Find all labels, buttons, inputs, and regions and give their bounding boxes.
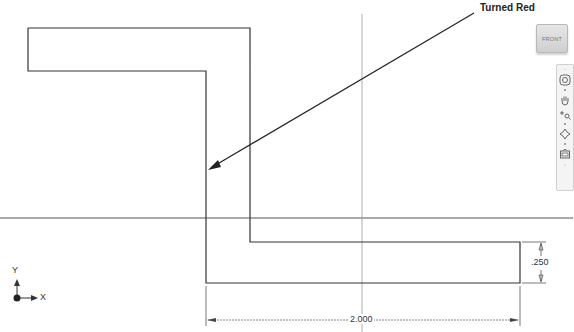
- navbar-customize-icon[interactable]: ▫: [564, 161, 566, 169]
- navbar-separator: [564, 143, 566, 145]
- leader-arrowhead: [208, 160, 221, 170]
- thickness-dimension-value[interactable]: .250: [530, 257, 550, 267]
- steering-wheel-icon[interactable]: [558, 73, 572, 87]
- navbar-separator: [564, 89, 566, 91]
- coordinate-triad: [14, 279, 39, 302]
- navbar-separator: [564, 123, 566, 125]
- viewcube[interactable]: FRONT: [536, 24, 568, 53]
- width-dimension-value[interactable]: 2.000: [349, 314, 374, 324]
- pan-hand-icon[interactable]: [558, 93, 572, 107]
- navbar-close-icon[interactable]: ◦: [564, 65, 566, 73]
- orbit-icon[interactable]: [558, 127, 572, 141]
- callout-text: Turned Red: [480, 2, 535, 13]
- y-axis-label: Y: [12, 265, 18, 275]
- leader-line: [214, 13, 474, 166]
- view-face-icon[interactable]: [558, 147, 572, 161]
- navigation-bar: ◦ ▫: [556, 64, 574, 191]
- viewcube-face-label: FRONT: [542, 36, 562, 42]
- profile-sketch[interactable]: [28, 28, 520, 283]
- x-axis-label: X: [40, 292, 46, 302]
- zoom-icon[interactable]: [558, 107, 572, 121]
